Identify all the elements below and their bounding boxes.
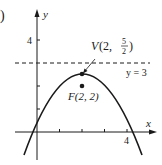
vertex-label-coords: (2, bbox=[99, 39, 112, 53]
x-axis-arrow-icon bbox=[149, 130, 157, 135]
x-tick-label-4: 4 bbox=[124, 135, 129, 146]
directrix-label: y = 3 bbox=[126, 67, 147, 78]
part-label: ) bbox=[0, 8, 5, 24]
vertex-label-close: ) bbox=[129, 39, 133, 53]
y-tick-label-4: 4 bbox=[27, 35, 32, 46]
y-axis-arrow-icon bbox=[35, 9, 40, 17]
focus-label-text: F(2, 2) bbox=[67, 90, 99, 103]
vertex-frac-numerator: 5 bbox=[122, 37, 126, 46]
y-axis-label: y bbox=[42, 8, 48, 20]
x-axis-label: x bbox=[145, 117, 151, 129]
vertex-frac-denominator: 2 bbox=[122, 47, 126, 56]
focus-label: F(2, 2) bbox=[67, 90, 99, 103]
parabola-diagram: ) y x 4 4 y = 3 V (2, 5 2 ) F(2, 2) bbox=[0, 0, 162, 165]
focus-point bbox=[80, 84, 85, 89]
